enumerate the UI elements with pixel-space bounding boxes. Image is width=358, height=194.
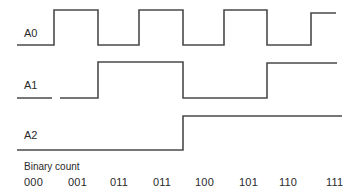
signal-label-a2: A2 xyxy=(24,129,37,141)
binary-count-value: 110 xyxy=(279,176,297,188)
binary-count-value: 011 xyxy=(153,176,171,188)
binary-count-value: 111 xyxy=(326,176,343,188)
waveform-a1 xyxy=(60,62,337,98)
waveform-a2 xyxy=(17,116,342,150)
binary-count-value: 100 xyxy=(195,176,214,188)
binary-count-caption: Binary count xyxy=(24,161,80,173)
waveform-a0 xyxy=(17,10,336,45)
binary-count-value: 001 xyxy=(68,176,87,188)
binary-count-value: 011 xyxy=(110,176,128,188)
signal-label-a1: A1 xyxy=(24,79,37,91)
binary-count-value: 101 xyxy=(239,176,258,188)
binary-count-value: 000 xyxy=(24,176,43,188)
signal-label-a0: A0 xyxy=(24,27,37,39)
